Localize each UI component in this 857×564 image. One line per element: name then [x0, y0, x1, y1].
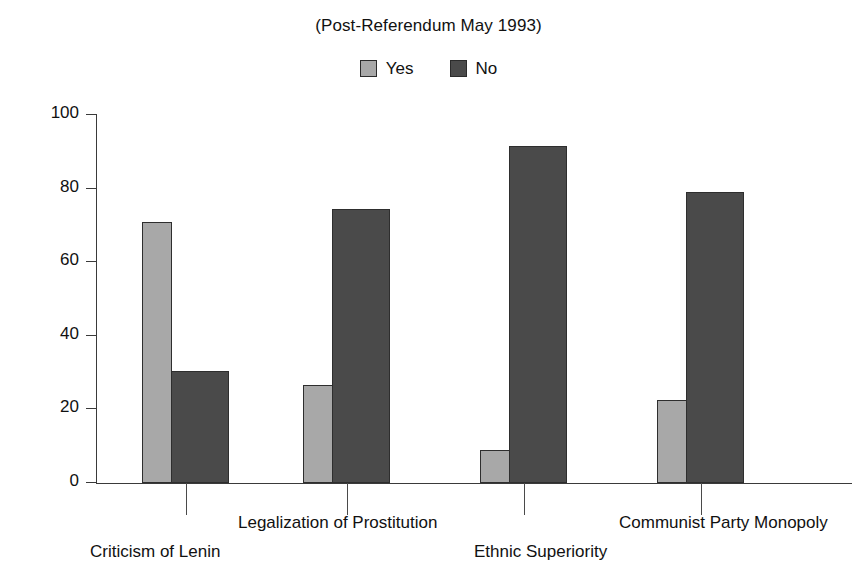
x-axis-label: Ethnic Superiority: [474, 542, 607, 562]
y-axis-tick-label: 20: [60, 397, 79, 417]
chart-title: (Post-Referendum May 1993): [0, 16, 857, 36]
y-axis-tick: 0: [86, 482, 96, 483]
legend-item-yes: Yes: [360, 60, 414, 77]
plot-area: 100806040200: [96, 115, 852, 483]
x-axis-tick: [347, 483, 348, 515]
y-axis-tick: 20: [86, 408, 96, 409]
x-axis-tick: [524, 483, 525, 515]
bar-no: [686, 192, 744, 483]
legend-label-yes: Yes: [386, 60, 414, 77]
bar-yes: [303, 385, 333, 483]
chart-legend: Yes No: [0, 60, 857, 77]
legend-swatch-yes: [360, 60, 377, 77]
y-axis-tick: 40: [86, 335, 96, 336]
bar-yes: [480, 450, 510, 483]
y-axis-tick: 60: [86, 261, 96, 262]
bar-yes: [657, 400, 687, 483]
legend-item-no: No: [450, 60, 498, 77]
legend-label-no: No: [476, 60, 498, 77]
bar-chart: (Post-Referendum May 1993) Yes No 100806…: [0, 0, 857, 564]
y-axis-tick-label: 80: [60, 177, 79, 197]
x-axis-line: [96, 483, 852, 484]
x-axis-label: Legalization of Prostitution: [238, 513, 437, 533]
y-axis-line: [96, 114, 97, 484]
y-axis-tick-label: 100: [51, 103, 79, 123]
y-axis-tick-label: 40: [60, 324, 79, 344]
x-axis-tick: [186, 483, 187, 515]
bar-no: [332, 209, 390, 483]
x-axis-label: Criticism of Lenin: [90, 542, 220, 562]
x-axis-label: Communist Party Monopoly: [619, 513, 828, 533]
y-axis-tick: 80: [86, 188, 96, 189]
bar-no: [509, 146, 567, 483]
y-axis-tick-label: 60: [60, 250, 79, 270]
y-axis-tick: 100: [86, 114, 96, 115]
y-axis-tick-label: 0: [70, 471, 79, 491]
legend-swatch-no: [450, 60, 467, 77]
x-axis-tick: [701, 483, 702, 515]
bar-no: [171, 371, 229, 483]
bar-yes: [142, 222, 172, 483]
